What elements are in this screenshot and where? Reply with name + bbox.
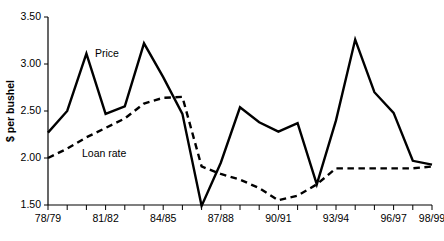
x-tick-label: 90/91	[265, 212, 291, 224]
x-tick-label: 84/85	[150, 212, 176, 224]
series-line-price	[48, 40, 432, 206]
x-axis: 78/7981/8284/8587/8890/9193/9496/9798/99	[35, 205, 444, 224]
chart-plot-area: 1.502.002.503.003.50 78/7981/8284/8587/8…	[0, 0, 444, 241]
y-axis-title: $ per bushel	[4, 80, 16, 142]
y-tick-label: 2.00	[21, 151, 42, 163]
y-tick-label: 2.50	[21, 104, 42, 116]
x-tick-label: 96/97	[380, 212, 406, 224]
y-tick-label: 1.50	[21, 198, 42, 210]
x-tick-label: 78/79	[35, 212, 61, 224]
x-tick-label: 93/94	[323, 212, 349, 224]
loan-rate-series-label: Loan rate	[82, 147, 127, 159]
x-tick-label: 81/82	[92, 212, 118, 224]
chart-container: 1.502.002.503.003.50 78/7981/8284/8587/8…	[0, 0, 444, 241]
x-tick-label: 87/88	[208, 212, 234, 224]
x-tick-label: 98/99	[419, 212, 444, 224]
price-series-label: Price	[95, 47, 119, 59]
y-tick-label: 3.00	[21, 57, 42, 69]
y-tick-label: 3.50	[21, 10, 42, 22]
data-series-group	[48, 40, 432, 206]
y-axis: 1.502.002.503.003.50	[21, 10, 48, 210]
